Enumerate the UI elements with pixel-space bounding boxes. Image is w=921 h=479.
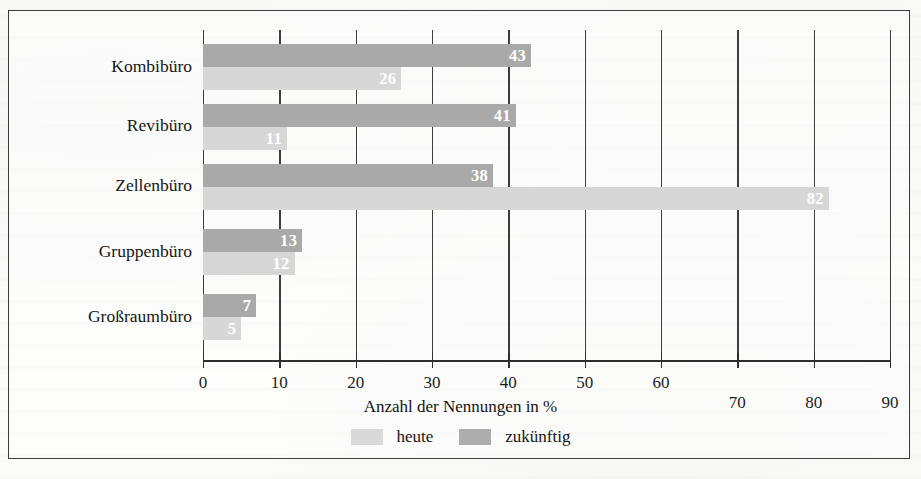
chart-legend: heute zukünftig xyxy=(0,428,921,445)
bar-revibuero-zukuenftig: 41 xyxy=(203,104,516,127)
x-tick-90 xyxy=(890,353,891,368)
legend-label-heute: heute xyxy=(397,428,434,445)
x-tick-0 xyxy=(203,353,204,368)
bar-zellenbuero-zukuenftig: 38 xyxy=(203,164,493,187)
category-label-revibuero: Revibüro xyxy=(127,117,192,135)
bar-kombibuero-zukuenftig: 43 xyxy=(203,44,531,67)
bar-value-kombibuero-heute: 26 xyxy=(379,70,396,87)
legend-swatch-heute xyxy=(351,429,383,445)
bar-gruppenbuero-zukuenftig: 13 xyxy=(203,229,302,252)
x-tick-80 xyxy=(814,353,815,368)
bar-value-kombibuero-zukuenftig: 43 xyxy=(509,47,526,64)
category-label-kombibuero: Kombibüro xyxy=(111,58,192,76)
bar-value-revibuero-heute: 11 xyxy=(266,130,282,147)
bar-value-revibuero-zukuenftig: 41 xyxy=(494,107,511,124)
x-tick-label-10: 10 xyxy=(257,374,301,391)
bar-value-zellenbuero-heute: 82 xyxy=(807,190,824,207)
bar-revibuero-heute: 11 xyxy=(203,127,287,150)
x-tick-label-0: 0 xyxy=(181,374,225,391)
bar-value-zellenbuero-zukuenftig: 38 xyxy=(471,167,488,184)
legend-swatch-zukuenftig xyxy=(459,429,491,445)
bar-grossraumbuero-zukuenftig: 7 xyxy=(203,294,256,317)
bar-zellenbuero-heute: 82 xyxy=(203,187,829,210)
scanned-chart-page: Kombibüro Revibüro Zellenbüro Gruppenbür… xyxy=(0,0,921,479)
bar-grossraumbuero-heute: 5 xyxy=(203,317,241,340)
legend-label-zukuenftig: zukünftig xyxy=(505,428,570,445)
x-tick-10 xyxy=(279,353,280,368)
gridline-90 xyxy=(890,30,891,360)
x-tick-60 xyxy=(661,353,662,368)
x-tick-30 xyxy=(432,353,433,368)
x-tick-label-20: 20 xyxy=(334,374,378,391)
plot-area: 43 26 41 11 38 82 13 12 7 5 xyxy=(203,30,890,360)
bar-value-gruppenbuero-zukuenftig: 13 xyxy=(280,232,297,249)
x-axis-title: Anzahl der Nennungen in % xyxy=(0,397,921,417)
x-tick-20 xyxy=(356,353,357,368)
bar-value-grossraumbuero-heute: 5 xyxy=(228,320,237,337)
bar-kombibuero-heute: 26 xyxy=(203,67,401,90)
bar-gruppenbuero-heute: 12 xyxy=(203,252,295,275)
x-tick-label-50: 50 xyxy=(563,374,607,391)
x-axis-line xyxy=(203,360,891,362)
x-tick-70 xyxy=(737,353,738,368)
legend-item-heute: heute xyxy=(351,428,434,445)
x-tick-label-40: 40 xyxy=(486,374,530,391)
x-tick-50 xyxy=(585,353,586,368)
x-tick-label-60: 60 xyxy=(639,374,683,391)
x-tick-label-30: 30 xyxy=(410,374,454,391)
category-label-grossraumbuero: Großraumbüro xyxy=(88,308,192,326)
bar-value-grossraumbuero-zukuenftig: 7 xyxy=(243,297,252,314)
legend-item-zukuenftig: zukünftig xyxy=(459,428,570,445)
category-label-gruppenbuero: Gruppenbüro xyxy=(99,243,192,261)
bar-value-gruppenbuero-heute: 12 xyxy=(272,255,289,272)
x-tick-40 xyxy=(508,353,509,368)
category-label-zellenbuero: Zellenbüro xyxy=(115,177,192,195)
category-axis: Kombibüro Revibüro Zellenbüro Gruppenbür… xyxy=(0,0,192,449)
